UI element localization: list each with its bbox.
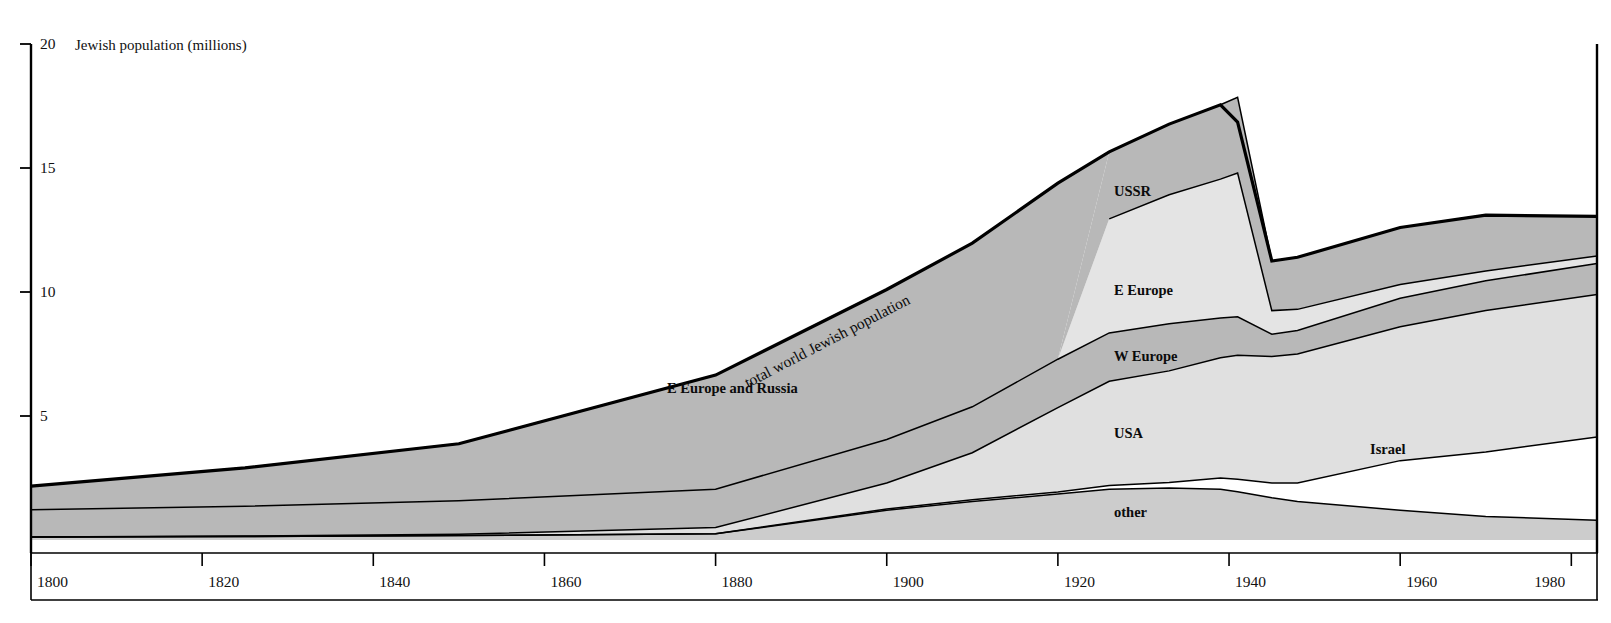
y-tick-label-10: 10 [40,283,56,300]
y-tick-label-5: 5 [40,407,48,424]
band-label-w-europe: W Europe [1114,348,1178,364]
x-tick-label-1960: 1960 [1406,573,1437,590]
x-tick-label-1900: 1900 [893,573,924,590]
x-tick-label-1920: 1920 [1064,573,1095,590]
x-tick-label-1860: 1860 [550,573,581,590]
x-tick-group [31,553,1571,566]
x-tick-label-1800: 1800 [37,573,68,590]
y-tick-group [20,44,31,416]
y-tick-label-15: 15 [40,159,56,176]
stacked-area-chart: Jewish population (millions) 5101520 180… [0,0,1611,623]
chart-figure: Jewish population (millions) 5101520 180… [0,0,1611,623]
y-axis-caption: Jewish population (millions) [75,37,247,54]
y-tick-labels: 5101520 [40,35,56,424]
x-tick-label-1840: 1840 [379,573,410,590]
band-label-israel: Israel [1370,441,1405,457]
x-tick-labels: 1800182018401860188019001920194019601980 [37,573,1566,590]
area-bands-group [31,97,1597,540]
band-label-ussr: USSR [1114,183,1152,199]
band-label-usa: USA [1114,425,1144,441]
band-label-e-europe: E Europe [1114,282,1174,298]
x-tick-label-1880: 1880 [722,573,753,590]
x-tick-label-1820: 1820 [208,573,239,590]
band-label-e-europe-and-russia: E Europe and Russia [667,380,798,396]
x-tick-label-1940: 1940 [1235,573,1266,590]
x-tick-label-1980: 1980 [1534,573,1565,590]
band-label-other: other [1114,504,1148,520]
y-tick-label-20: 20 [40,35,56,52]
